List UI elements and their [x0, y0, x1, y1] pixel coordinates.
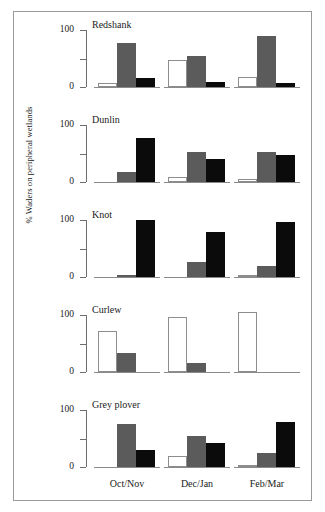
- y-tick-label-0: 0: [48, 271, 74, 281]
- bar-black: [206, 159, 225, 182]
- bar-gray: [187, 436, 206, 467]
- panel-title: Curlew: [92, 304, 121, 315]
- y-axis-tick-0: [80, 467, 86, 468]
- panel-title: Knot: [92, 209, 112, 220]
- y-tick-label-100: 100: [48, 309, 74, 319]
- y-axis-tick-50: [80, 439, 86, 440]
- y-axis-tick-50: [80, 154, 86, 155]
- bar-black: [136, 220, 155, 277]
- bar-white: [238, 77, 257, 87]
- baseline-segment: [164, 467, 230, 468]
- y-axis-tick-50: [80, 249, 86, 250]
- baseline-segment: [234, 467, 300, 468]
- bar-gray: [187, 262, 206, 277]
- baseline-segment: [94, 277, 160, 278]
- baseline-segment: [94, 467, 160, 468]
- baseline-segment: [234, 372, 300, 373]
- bar-gray: [257, 266, 276, 277]
- panel-title: Grey plover: [92, 399, 140, 410]
- bar-white: [168, 60, 187, 87]
- x-axis-label-oct-nov: Oct/Nov: [95, 478, 159, 489]
- y-axis-tick-0: [80, 372, 86, 373]
- y-axis-tick-100: [80, 125, 86, 126]
- panel-title: Dunlin: [92, 114, 120, 125]
- panel-dunlin: Dunlin1000: [40, 117, 298, 201]
- y-tick-label-100: 100: [48, 119, 74, 129]
- y-axis-tick-0: [80, 87, 86, 88]
- x-axis-label-feb-mar: Feb/Mar: [235, 478, 299, 489]
- bar-white: [238, 275, 257, 277]
- bar-black: [206, 443, 225, 467]
- y-axis-line: [86, 315, 87, 372]
- panel-curlew: Curlew1000: [40, 307, 298, 391]
- bar-gray: [187, 152, 206, 182]
- bar-gray: [257, 152, 276, 182]
- bar-black: [276, 83, 295, 87]
- bar-black: [206, 82, 225, 87]
- bar-gray: [117, 275, 136, 277]
- bar-gray: [187, 363, 206, 372]
- bar-black: [136, 78, 155, 87]
- y-axis-tick-50: [80, 59, 86, 60]
- y-axis-tick-100: [80, 220, 86, 221]
- bar-gray: [257, 453, 276, 467]
- bar-black: [136, 138, 155, 182]
- y-tick-label-100: 100: [48, 24, 74, 34]
- panel-grey-plover: Grey plover1000: [40, 402, 298, 486]
- y-axis-tick-100: [80, 410, 86, 411]
- bar-black: [206, 232, 225, 277]
- y-axis-tick-50: [80, 344, 86, 345]
- y-tick-label-0: 0: [48, 81, 74, 91]
- y-axis-label: % Waders on peripheral wetlands: [24, 75, 34, 255]
- baseline-segment: [94, 182, 160, 183]
- baseline-segment: [234, 182, 300, 183]
- panel-title: Redshank: [92, 19, 131, 30]
- panel-knot: Knot1000: [40, 212, 298, 296]
- baseline-segment: [234, 87, 300, 88]
- baseline-segment: [164, 372, 230, 373]
- bar-black: [276, 422, 295, 467]
- bar-white: [98, 331, 117, 372]
- panel-redshank: Redshank1000: [40, 22, 298, 106]
- y-tick-label-0: 0: [48, 366, 74, 376]
- bar-black: [136, 450, 155, 467]
- bar-gray: [117, 353, 136, 372]
- bar-black: [276, 155, 295, 182]
- bar-white: [168, 177, 187, 182]
- bar-white: [238, 312, 257, 372]
- bar-gray: [257, 36, 276, 87]
- y-axis-line: [86, 410, 87, 467]
- figure-root: % Waders on peripheral wetlands Redshank…: [0, 0, 325, 512]
- baseline-segment: [164, 87, 230, 88]
- bar-black: [276, 222, 295, 277]
- baseline-segment: [94, 372, 160, 373]
- bar-gray: [187, 56, 206, 87]
- y-axis-tick-0: [80, 182, 86, 183]
- y-axis-line: [86, 125, 87, 182]
- bar-white: [238, 465, 257, 467]
- y-tick-label-100: 100: [48, 214, 74, 224]
- baseline-segment: [164, 277, 230, 278]
- y-tick-label-0: 0: [48, 461, 74, 471]
- y-axis-line: [86, 30, 87, 87]
- y-tick-label-0: 0: [48, 176, 74, 186]
- bar-gray: [117, 43, 136, 87]
- bar-white: [168, 317, 187, 372]
- bar-gray: [117, 172, 136, 182]
- x-axis-label-dec-jan: Dec/Jan: [165, 478, 229, 489]
- y-axis-tick-100: [80, 315, 86, 316]
- baseline-segment: [234, 277, 300, 278]
- baseline-segment: [164, 182, 230, 183]
- y-tick-label-100: 100: [48, 404, 74, 414]
- y-axis-line: [86, 220, 87, 277]
- bar-white: [98, 83, 117, 87]
- y-axis-tick-100: [80, 30, 86, 31]
- baseline-segment: [94, 87, 160, 88]
- bar-white: [168, 456, 187, 467]
- y-axis-tick-0: [80, 277, 86, 278]
- bar-gray: [117, 424, 136, 467]
- bar-white: [238, 179, 257, 182]
